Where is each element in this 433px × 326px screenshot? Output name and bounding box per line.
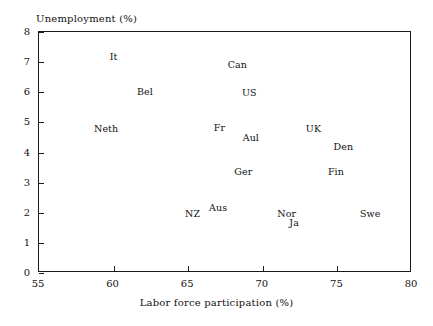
data-point-label: Den [334, 141, 354, 152]
data-point-label: Ja [289, 216, 299, 227]
data-point-label: Aul [243, 132, 259, 143]
data-point-label: Fr [214, 121, 225, 132]
y-tick-mark [39, 243, 44, 244]
x-tick-label: 60 [93, 278, 133, 289]
x-tick-label: 75 [316, 278, 356, 289]
x-tick-label: 70 [242, 278, 282, 289]
y-tick-mark [39, 183, 44, 184]
data-point-label: Swe [360, 207, 381, 218]
data-point-label: Neth [94, 123, 118, 134]
x-tick-mark [114, 266, 115, 271]
y-tick-label: 7 [0, 56, 30, 67]
y-tick-label: 3 [0, 176, 30, 187]
data-point-label: UK [306, 123, 321, 134]
data-point-label: NZ [185, 207, 200, 218]
y-tick-mark [39, 213, 44, 214]
x-tick-label: 65 [167, 278, 207, 289]
y-tick-label: 5 [0, 116, 30, 127]
data-point-label: Ger [234, 165, 252, 176]
y-tick-label: 4 [0, 146, 30, 157]
y-tick-mark [39, 122, 44, 123]
x-tick-mark [263, 266, 264, 271]
y-tick-mark [39, 273, 44, 274]
x-tick-label: 55 [18, 278, 58, 289]
y-tick-mark [39, 153, 44, 154]
data-point-label: Can [228, 58, 247, 69]
y-tick-label: 2 [0, 206, 30, 217]
y-tick-mark [39, 62, 44, 63]
data-point-label: Aus [209, 201, 227, 212]
scatter-plot-figure: Unemployment (%) ItCanBelUSNethFrUKAulDe… [0, 0, 433, 326]
data-point-label: US [242, 87, 257, 98]
x-axis-title: Labor force participation (%) [0, 297, 433, 308]
data-point-label: It [110, 51, 118, 62]
y-tick-label: 8 [0, 26, 30, 37]
x-tick-label: 80 [391, 278, 431, 289]
y-tick-mark [39, 32, 44, 33]
y-tick-label: 6 [0, 86, 30, 97]
x-tick-mark [337, 266, 338, 271]
plot-area: ItCanBelUSNethFrUKAulDenGerFinAusNZNorSw… [38, 31, 411, 272]
y-tick-label: 1 [0, 236, 30, 247]
y-tick-mark [39, 92, 44, 93]
x-tick-mark [188, 266, 189, 271]
data-point-label: Fin [328, 165, 344, 176]
y-axis-title: Unemployment (%) [36, 13, 137, 24]
data-point-label: Bel [137, 85, 153, 96]
y-tick-label: 0 [0, 267, 30, 278]
